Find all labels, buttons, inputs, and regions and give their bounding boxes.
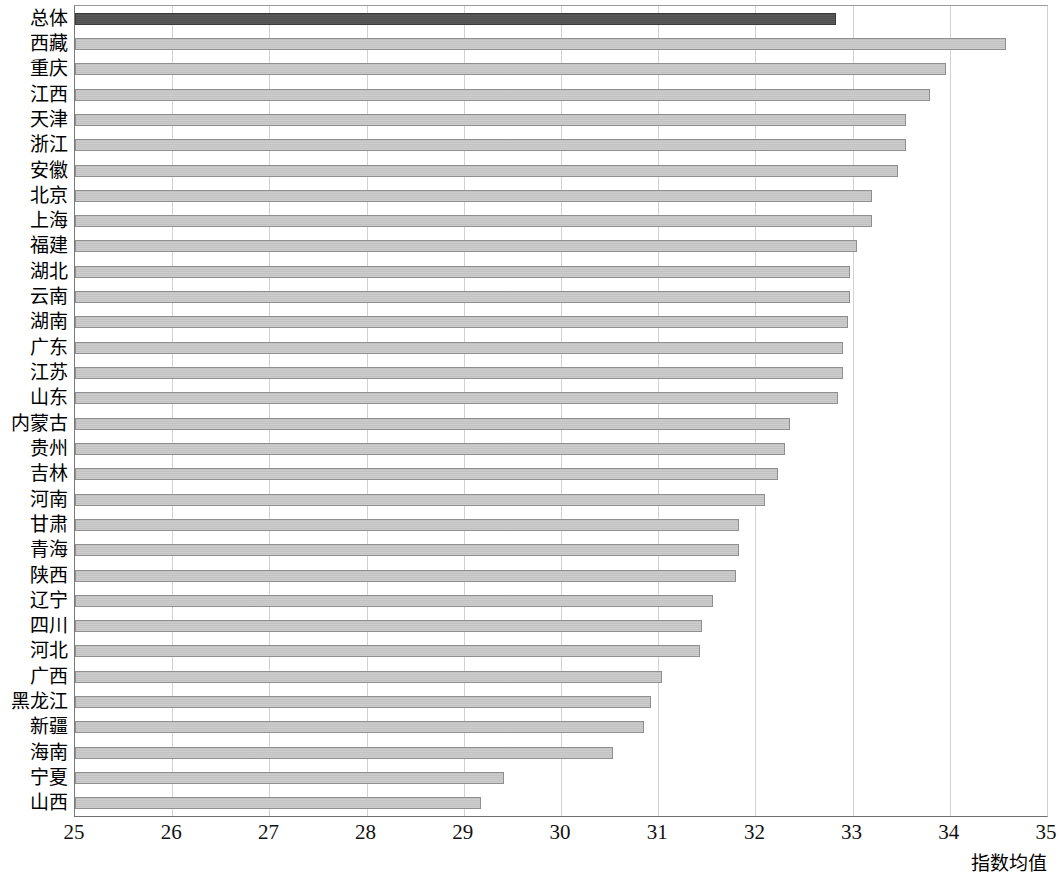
y-axis-label: 广西 (30, 663, 68, 689)
bars-layer (75, 6, 1047, 816)
bar (75, 367, 843, 379)
y-axis-label: 总体 (30, 5, 68, 31)
bar (75, 418, 790, 430)
x-tick-label: 27 (258, 820, 279, 845)
y-axis-label: 宁夏 (30, 764, 68, 790)
y-axis-label: 广东 (30, 334, 68, 360)
bar (75, 721, 644, 733)
y-axis-label: 云南 (30, 283, 68, 309)
bar-chart: 总体西藏重庆江西天津浙江安徽北京上海福建湖北云南湖南广东江苏山东内蒙古贵州吉林河… (0, 0, 1059, 875)
y-axis-label: 河南 (30, 486, 68, 512)
bar (75, 392, 838, 404)
x-axis-tick-labels: 2526272829303132333435 (74, 820, 1046, 850)
bar (75, 544, 739, 556)
x-tick-label: 33 (841, 820, 862, 845)
y-axis-label: 河北 (30, 637, 68, 663)
y-axis-label: 黑龙江 (11, 688, 68, 714)
y-axis-label: 湖南 (30, 308, 68, 334)
x-tick-label: 31 (647, 820, 668, 845)
bar (75, 772, 504, 784)
bar (75, 215, 872, 227)
bar (75, 494, 765, 506)
plot-area (74, 5, 1048, 817)
y-axis-category-labels: 总体西藏重庆江西天津浙江安徽北京上海福建湖北云南湖南广东江苏山东内蒙古贵州吉林河… (0, 5, 72, 815)
y-axis-label: 江西 (30, 81, 68, 107)
x-tick-label: 29 (452, 820, 473, 845)
y-axis-label: 西藏 (30, 30, 68, 56)
bar (75, 468, 778, 480)
y-axis-label: 浙江 (30, 131, 68, 157)
y-axis-label: 天津 (30, 106, 68, 132)
bar (75, 114, 906, 126)
y-axis-label: 贵州 (30, 435, 68, 461)
y-axis-label: 新疆 (30, 713, 68, 739)
y-axis-label: 山西 (30, 789, 68, 815)
y-axis-label: 江苏 (30, 359, 68, 385)
bar (75, 89, 930, 101)
x-tick-label: 28 (355, 820, 376, 845)
bar (75, 519, 739, 531)
y-axis-label: 吉林 (30, 460, 68, 486)
y-axis-label: 上海 (30, 207, 68, 233)
bar (75, 570, 736, 582)
bar (75, 797, 481, 809)
y-axis-label: 陕西 (30, 562, 68, 588)
bar (75, 747, 613, 759)
y-axis-label: 北京 (30, 182, 68, 208)
y-axis-label: 内蒙古 (11, 410, 68, 436)
y-axis-label: 青海 (30, 536, 68, 562)
y-axis-label: 山东 (30, 384, 68, 410)
bar (75, 291, 850, 303)
bar (75, 620, 702, 632)
y-axis-label: 辽宁 (30, 587, 68, 613)
x-tick-label: 34 (938, 820, 959, 845)
gridline (1047, 6, 1048, 816)
x-axis-title: 指数均值 (971, 848, 1047, 875)
bar (75, 266, 850, 278)
bar (75, 671, 662, 683)
x-tick-label: 30 (550, 820, 571, 845)
bar (75, 443, 785, 455)
bar (75, 696, 651, 708)
y-axis-label: 福建 (30, 232, 68, 258)
bar (75, 342, 843, 354)
bar (75, 190, 872, 202)
y-axis-label: 湖北 (30, 258, 68, 284)
bar (75, 63, 946, 75)
bar (75, 38, 1006, 50)
x-tick-label: 35 (1036, 820, 1057, 845)
x-tick-label: 32 (744, 820, 765, 845)
x-tick-label: 26 (161, 820, 182, 845)
bar (75, 645, 700, 657)
bar (75, 139, 906, 151)
y-axis-label: 安徽 (30, 157, 68, 183)
bar (75, 165, 898, 177)
y-axis-label: 四川 (30, 612, 68, 638)
bar (75, 316, 848, 328)
y-axis-label: 海南 (30, 739, 68, 765)
bar (75, 13, 836, 25)
bar (75, 240, 857, 252)
y-axis-label: 甘肃 (30, 511, 68, 537)
bar (75, 595, 713, 607)
y-axis-label: 重庆 (30, 55, 68, 81)
x-tick-label: 25 (64, 820, 85, 845)
